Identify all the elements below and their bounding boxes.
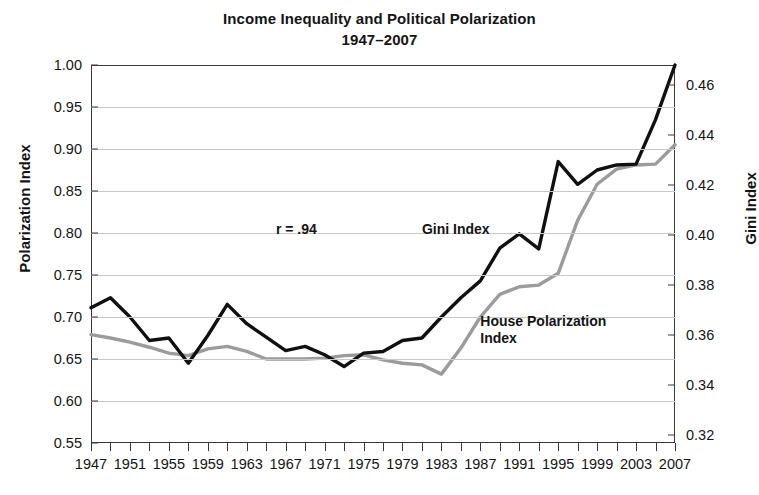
- y-tick-label-left: 0.70: [54, 309, 82, 325]
- x-tick: [656, 443, 657, 451]
- x-tick: [539, 443, 540, 451]
- x-tick: [636, 443, 637, 451]
- x-tick: [597, 443, 598, 451]
- x-tick-label: 1959: [192, 456, 224, 472]
- y-tick-label-right: 0.40: [686, 227, 714, 243]
- x-tick: [383, 443, 384, 451]
- gridline: [91, 107, 675, 108]
- y-tick-label-left: 0.85: [54, 183, 82, 199]
- chart-annotation: r = .94: [276, 221, 317, 238]
- y-tick-left: [91, 65, 98, 66]
- y-tick-label-right: 0.38: [686, 277, 714, 293]
- y-tick-left: [91, 191, 98, 192]
- x-tick: [325, 443, 326, 451]
- y-tick-label-right: 0.46: [686, 77, 714, 93]
- chart-annotation: House Polarization Index: [480, 313, 606, 347]
- y-axis-label-right: Gini Index: [742, 99, 759, 319]
- x-tick: [364, 443, 365, 451]
- x-tick-label: 1951: [114, 456, 146, 472]
- y-tick-right: [668, 184, 675, 185]
- y-tick-label-left: 0.55: [54, 435, 82, 451]
- x-tick: [480, 443, 481, 451]
- y-tick-right: [668, 334, 675, 335]
- x-tick-label: 2003: [620, 456, 652, 472]
- y-tick-label-left: 0.95: [54, 99, 82, 115]
- y-tick-left: [91, 149, 98, 150]
- y-tick-label-right: 0.34: [686, 377, 714, 393]
- x-tick-label: 1955: [153, 456, 185, 472]
- y-tick-right: [668, 284, 675, 285]
- x-tick: [519, 443, 520, 451]
- y-tick-label-left: 1.00: [54, 57, 82, 73]
- x-tick: [169, 443, 170, 451]
- chart-annotation: Gini Index: [422, 221, 490, 238]
- series-lines: [91, 65, 675, 443]
- y-tick-label-left: 0.60: [54, 393, 82, 409]
- gridline: [91, 275, 675, 276]
- x-tick: [110, 443, 111, 451]
- x-tick: [578, 443, 579, 451]
- x-tick: [305, 443, 306, 451]
- x-tick: [188, 443, 189, 451]
- y-tick-left: [91, 233, 98, 234]
- x-tick-label: 2007: [659, 456, 691, 472]
- gridline: [91, 359, 675, 360]
- y-tick-left: [91, 317, 98, 318]
- y-tick-label-right: 0.42: [686, 177, 714, 193]
- y-tick-left: [91, 359, 98, 360]
- y-tick-right: [668, 134, 675, 135]
- x-tick: [247, 443, 248, 451]
- x-tick: [91, 443, 92, 451]
- x-tick-label: 1991: [503, 456, 535, 472]
- chart-title: Income Inequality and Political Polariza…: [0, 8, 759, 50]
- y-tick-left: [91, 401, 98, 402]
- x-tick-label: 1947: [75, 456, 107, 472]
- y-tick-right: [668, 84, 675, 85]
- y-tick-right: [668, 434, 675, 435]
- x-tick-label: 1987: [464, 456, 496, 472]
- y-tick-label-left: 0.75: [54, 267, 82, 283]
- y-tick-left: [91, 107, 98, 108]
- x-tick: [558, 443, 559, 451]
- x-tick-label: 1975: [347, 456, 379, 472]
- chart-figure: Income Inequality and Political Polariza…: [0, 0, 759, 495]
- x-tick: [266, 443, 267, 451]
- y-tick-label-right: 0.44: [686, 127, 714, 143]
- x-tick-label: 1967: [270, 456, 302, 472]
- y-tick-label-right: 0.36: [686, 327, 714, 343]
- x-tick-label: 1963: [231, 456, 263, 472]
- x-tick: [402, 443, 403, 451]
- gridline: [91, 233, 675, 234]
- x-tick: [286, 443, 287, 451]
- x-tick: [208, 443, 209, 451]
- y-tick-label-left: 0.65: [54, 351, 82, 367]
- gridline: [91, 191, 675, 192]
- chart-title-line1: Income Inequality and Political Polariza…: [0, 8, 759, 29]
- x-tick-label: 1995: [542, 456, 574, 472]
- y-tick-left: [91, 275, 98, 276]
- y-tick-left: [91, 443, 98, 444]
- x-tick-label: 1971: [308, 456, 340, 472]
- x-tick-label: 1983: [425, 456, 457, 472]
- x-tick: [675, 443, 676, 451]
- chart-title-line2: 1947–2007: [0, 29, 759, 50]
- x-tick: [149, 443, 150, 451]
- x-tick: [461, 443, 462, 451]
- y-tick-right: [668, 234, 675, 235]
- x-tick: [500, 443, 501, 451]
- y-tick-label-left: 0.80: [54, 225, 82, 241]
- x-tick: [441, 443, 442, 451]
- gridline: [91, 149, 675, 150]
- x-tick: [130, 443, 131, 451]
- plot-area: 0.550.600.650.700.750.800.850.900.951.00…: [91, 65, 675, 443]
- x-tick: [422, 443, 423, 451]
- x-tick-label: 1979: [386, 456, 418, 472]
- y-tick-right: [668, 384, 675, 385]
- x-tick: [227, 443, 228, 451]
- y-tick-label-left: 0.90: [54, 141, 82, 157]
- x-tick: [344, 443, 345, 451]
- gridline: [91, 401, 675, 402]
- y-axis-label-left: Polarization Index: [16, 99, 33, 319]
- y-tick-label-right: 0.32: [686, 427, 714, 443]
- x-tick: [617, 443, 618, 451]
